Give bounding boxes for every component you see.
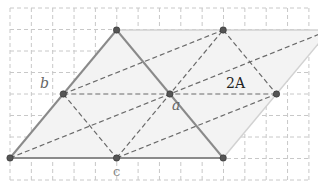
label-c: c [113,164,120,179]
point-c [113,155,119,161]
label-a: a [172,97,180,113]
point-bottom_left [7,155,13,161]
point-top_mid [220,27,226,33]
label-b: b [40,75,49,91]
point-apex [113,27,119,33]
point-bottom_right [220,155,226,161]
point-right_mid [273,91,279,97]
triangle-diagram: b a c 2A [0,0,318,190]
diagram-canvas: b a c 2A [0,0,318,190]
point-b [60,91,66,97]
label-2A: 2A [226,75,246,91]
